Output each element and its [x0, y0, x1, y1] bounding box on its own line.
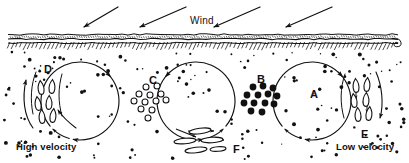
soil-stipple — [104, 36, 105, 38]
soil-stipple — [392, 35, 393, 37]
sand-dot — [381, 71, 383, 73]
soil-stipple — [137, 35, 138, 37]
soil-stipple — [58, 36, 59, 38]
sand-dot — [171, 157, 172, 158]
wind-arrow-2 — [140, 7, 186, 27]
soil-stipple — [100, 36, 101, 38]
sand-dot — [205, 71, 207, 73]
soil-hatch — [173, 42, 176, 48]
region-d-particle-2 — [49, 79, 56, 93]
soil-hatch — [145, 42, 148, 49]
soil-stipple — [215, 36, 216, 38]
soil-stipple — [219, 35, 220, 37]
sand-dot — [318, 88, 321, 91]
sand-dot — [323, 70, 327, 74]
sand-dot — [321, 105, 323, 107]
wind-arrow-3 — [214, 7, 260, 27]
sand-dot — [49, 131, 53, 135]
sand-dot — [396, 64, 397, 65]
soil-stipple — [72, 36, 73, 38]
region-c-particle-10 — [138, 106, 144, 112]
soil-stipple — [164, 36, 165, 38]
sand-dot — [131, 148, 134, 151]
soil-stipple — [394, 36, 395, 38]
high-velocity-label: High velocity — [16, 141, 76, 152]
soil-stipple — [357, 36, 358, 38]
sand-dot — [389, 69, 391, 71]
wind-arrow-4 — [286, 7, 332, 27]
sand-dot — [246, 130, 250, 134]
soil-stipple — [252, 36, 253, 38]
soil-stipple — [210, 36, 211, 38]
sand-dot — [24, 52, 26, 54]
soil-hatch — [88, 42, 92, 49]
soil-stipple — [339, 36, 340, 38]
soil-stipple — [272, 35, 273, 37]
sand-dot — [43, 79, 45, 81]
sand-dot — [362, 58, 365, 61]
sand-dot — [70, 82, 72, 84]
sand-dot — [57, 155, 61, 159]
sand-dot — [370, 73, 371, 74]
sand-dot — [104, 63, 107, 66]
sand-dot — [124, 59, 126, 61]
region-c-particles — [131, 83, 169, 121]
soil-stipple — [258, 35, 259, 37]
soil-stipple — [192, 37, 193, 39]
sand-dot — [53, 56, 56, 59]
region-label-d: D — [44, 63, 52, 75]
low-velocity-label: Low velocity — [336, 141, 394, 152]
sand-dot — [335, 153, 338, 156]
sand-dot — [142, 68, 144, 70]
region-b-particle-6 — [265, 91, 272, 98]
sand-dot — [80, 59, 82, 61]
sand-dot — [375, 61, 378, 64]
soil-stipple — [265, 35, 266, 37]
soil-stipple — [298, 37, 299, 39]
sand-dot — [62, 57, 65, 60]
sand-dot — [23, 118, 25, 120]
region-b-particle-12 — [248, 108, 255, 115]
soil-stipple — [166, 35, 167, 37]
sand-dot — [255, 129, 257, 131]
sand-dot — [133, 124, 135, 126]
soil-hatch — [198, 42, 200, 47]
soil-hatch — [23, 42, 27, 49]
sand-dot — [5, 94, 8, 97]
soil-stipple — [125, 37, 126, 39]
region-b-particle-13 — [259, 109, 266, 116]
soil-stipple — [355, 36, 356, 38]
soil-hatch — [44, 42, 47, 48]
soil-stipple — [95, 35, 96, 37]
sand-dot — [177, 80, 179, 82]
region-c-particle-8 — [153, 98, 159, 104]
region-b-particle-5 — [255, 92, 262, 99]
soil-stipple — [81, 36, 82, 38]
soil-stipple — [22, 35, 23, 37]
sand-dot — [190, 79, 191, 80]
soil-stipple — [380, 36, 381, 38]
region-d-particles — [34, 79, 57, 123]
soil-stipple — [390, 35, 391, 37]
sand-dot — [11, 51, 14, 54]
sand-dot — [165, 66, 169, 70]
soil-stipple — [185, 36, 186, 38]
soil-line-mid — [8, 38, 398, 39]
soil-stipple — [314, 36, 315, 38]
region-d-particle-4 — [46, 95, 52, 109]
soil-stipple — [63, 36, 64, 38]
sand-dot — [402, 118, 406, 122]
sand-dot — [316, 108, 319, 111]
sand-dot — [122, 91, 125, 94]
soil-stipple — [281, 36, 282, 38]
soil-hatch — [355, 42, 359, 49]
soil-stipple — [201, 36, 202, 38]
soil-stipple — [130, 36, 131, 38]
soil-stipple — [309, 36, 310, 38]
soil-stipple — [353, 36, 354, 38]
sand-dot — [368, 64, 371, 67]
sand-dot — [316, 128, 320, 132]
soil-stipple — [318, 36, 319, 38]
sand-dot — [281, 143, 282, 144]
soil-hatch — [193, 42, 196, 49]
